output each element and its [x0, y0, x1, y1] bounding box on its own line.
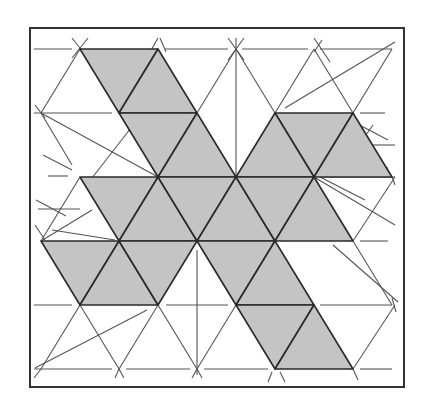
construction-line — [41, 305, 80, 369]
construction-line — [158, 305, 197, 369]
construction-line — [333, 245, 398, 302]
construction-line — [119, 369, 124, 378]
construction-line — [268, 372, 272, 382]
construction-line — [35, 310, 147, 368]
construction-line — [41, 113, 72, 165]
construction-line — [197, 305, 236, 369]
construction-line — [314, 49, 353, 113]
triangle-lattice-diagram — [0, 0, 427, 410]
construction-line — [280, 372, 285, 382]
construction-line — [52, 230, 115, 240]
construction-line — [35, 105, 45, 118]
construction-line — [314, 38, 330, 62]
construction-line — [192, 369, 197, 378]
construction-line — [353, 305, 395, 369]
construction-line — [275, 49, 314, 113]
construction-line — [35, 225, 45, 240]
construction-line — [41, 210, 92, 241]
construction-line — [115, 369, 119, 378]
shaded-triangle-region — [41, 49, 392, 369]
construction-line — [197, 49, 236, 113]
construction-line — [160, 38, 166, 52]
construction-line — [236, 49, 275, 113]
construction-line — [353, 369, 358, 380]
diagram-canvas — [0, 0, 427, 410]
construction-line — [80, 305, 119, 369]
construction-line — [353, 49, 392, 113]
construction-line — [41, 49, 80, 113]
construction-line — [197, 369, 202, 378]
construction-line — [353, 241, 392, 305]
construction-line — [285, 42, 395, 108]
construction-line — [353, 177, 395, 241]
construction-line — [34, 369, 41, 378]
